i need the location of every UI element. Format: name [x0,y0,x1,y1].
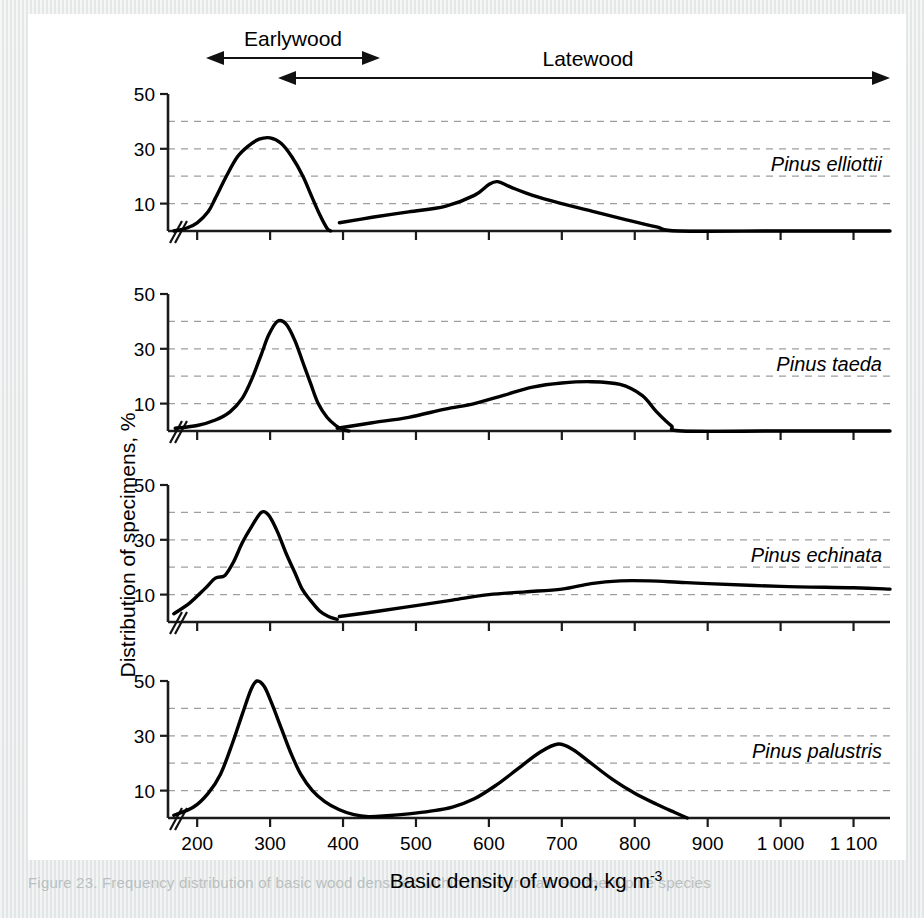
x-tick-label-300: 300 [254,833,286,854]
y-tick-label-30: 30 [134,139,155,160]
curve-pinus-echinata-latewood [339,581,890,617]
y-tick-label-10: 10 [134,781,155,802]
x-axis-title-exponent: -3 [650,868,663,884]
curve-pinus-palustris-combined [174,681,687,818]
latewood-band-arrow: Latewood [278,47,890,85]
curve-pinus-elliottii-latewood [339,182,890,232]
y-tick-label-50: 50 [134,671,155,692]
earlywood-band-arrow: Earlywood [206,27,380,65]
panel-pinus-echinata: 103050Pinus echinata [134,475,890,634]
x-tick-label-800: 800 [619,833,651,854]
x-tick-label-1100: 1 100 [830,833,878,854]
curve-pinus-elliottii-earlywood [174,138,331,231]
distribution-chart-svg: Earlywood Latewood Distribution of speci… [0,0,924,918]
x-tick-label-400: 400 [327,833,359,854]
y-tick-label-30: 30 [134,339,155,360]
y-tick-label-30: 30 [134,726,155,747]
figure-chart: Earlywood Latewood Distribution of speci… [0,0,924,918]
x-tick-label-500: 500 [400,833,432,854]
panel-group: 103050Pinus elliottii103050Pinus taeda10… [134,84,890,854]
x-tick-label-1000: 1 000 [757,833,805,854]
panel-pinus-elliottii: 103050Pinus elliottii [134,84,890,243]
y-tick-label-10: 10 [134,394,155,415]
species-label-pinus-palustris: Pinus palustris [752,740,882,762]
y-tick-label-50: 50 [134,475,155,496]
y-tick-label-50: 50 [134,84,155,105]
y-tick-label-50: 50 [134,284,155,305]
x-axis-title: Basic density of wood, kg m-3 [390,868,663,892]
panel-pinus-palustris: 1030502003004005006007008009001 0001 100… [134,671,890,854]
species-label-pinus-taeda: Pinus taeda [776,353,882,375]
x-tick-label-700: 700 [546,833,578,854]
y-tick-label-10: 10 [134,194,155,215]
x-axis-title-main: Basic density of wood, kg m [390,869,650,892]
y-tick-label-30: 30 [134,530,155,551]
curve-pinus-taeda-latewood [337,382,890,432]
earlywood-label: Earlywood [244,27,342,50]
species-label-pinus-echinata: Pinus echinata [751,544,882,566]
panel-pinus-taeda: 103050Pinus taeda [134,284,890,443]
species-label-pinus-elliottii: Pinus elliottii [771,153,883,175]
latewood-label: Latewood [542,47,633,70]
svg-text:Basic density of wood, kg m-3: Basic density of wood, kg m-3 [390,868,663,892]
x-tick-label-600: 600 [473,833,505,854]
y-tick-label-10: 10 [134,585,155,606]
x-tick-label-200: 200 [181,833,213,854]
curve-pinus-echinata-earlywood [174,512,337,620]
x-tick-label-900: 900 [692,833,724,854]
